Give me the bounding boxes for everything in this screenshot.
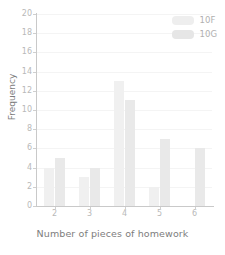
- y-tick-label: 16: [16, 48, 32, 56]
- bars-layer: [37, 14, 212, 206]
- bar-10g-2: [55, 158, 66, 206]
- legend-label: 10G: [200, 30, 217, 39]
- legend-item-10f[interactable]: 10F: [172, 16, 217, 25]
- y-tick-mark: [33, 33, 36, 34]
- y-tick-mark: [33, 52, 36, 53]
- y-tick-label: 0: [16, 202, 32, 210]
- y-tick-label: 6: [16, 144, 32, 152]
- legend-swatch-icon: [172, 30, 194, 39]
- x-tick-mark: [195, 207, 196, 210]
- y-tick-label: 18: [16, 29, 32, 37]
- y-tick-label: 12: [16, 87, 32, 95]
- bar-chart: 02468101214161820 23456 Number of pieces…: [0, 0, 225, 255]
- x-tick-label: 6: [185, 210, 205, 218]
- y-tick-mark: [33, 168, 36, 169]
- x-tick-label: 2: [45, 210, 65, 218]
- y-tick-label: 2: [16, 183, 32, 191]
- bar-10g-3: [90, 168, 101, 206]
- y-tick-mark: [33, 148, 36, 149]
- y-tick-mark: [33, 110, 36, 111]
- x-tick-label: 4: [115, 210, 135, 218]
- x-tick-label: 5: [150, 210, 170, 218]
- bar-10f-3: [79, 177, 90, 206]
- y-tick-label: 4: [16, 164, 32, 172]
- x-tick-mark: [90, 207, 91, 210]
- y-tick-mark: [33, 72, 36, 73]
- x-tick-mark: [160, 207, 161, 210]
- y-tick-mark: [33, 206, 36, 207]
- x-tick-label: 3: [80, 210, 100, 218]
- x-tick-mark: [125, 207, 126, 210]
- x-tick-mark: [55, 207, 56, 210]
- bar-10g-4: [125, 100, 136, 206]
- bar-10f-2: [44, 168, 55, 206]
- y-tick-label: 20: [16, 10, 32, 18]
- legend-item-10g[interactable]: 10G: [172, 30, 217, 39]
- y-tick-mark: [33, 129, 36, 130]
- legend-label: 10F: [200, 16, 216, 25]
- bar-10f-4: [114, 81, 125, 206]
- legend-swatch-icon: [172, 16, 194, 25]
- y-tick-mark: [33, 187, 36, 188]
- legend: 10F 10G: [172, 16, 217, 39]
- plot-area: [37, 14, 212, 206]
- y-tick-mark: [33, 91, 36, 92]
- x-axis-title: Number of pieces of homework: [0, 228, 225, 239]
- y-axis-title: Frequency: [7, 52, 17, 142]
- y-tick-label: 14: [16, 68, 32, 76]
- bar-10f-5: [149, 187, 160, 206]
- bar-10g-6: [195, 148, 206, 206]
- y-tick-label: 10: [16, 106, 32, 114]
- y-tick-mark: [33, 14, 36, 15]
- y-axis-line: [36, 13, 37, 207]
- bar-10g-5: [160, 139, 171, 206]
- y-tick-label: 8: [16, 125, 32, 133]
